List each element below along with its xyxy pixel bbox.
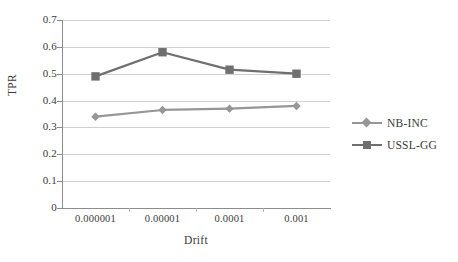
x-axis-tick-label: 0.0001 [214,213,244,225]
legend-label: USSL-GG [387,139,437,151]
x-axis-tick [129,208,130,212]
data-point-marker [225,104,233,112]
series-line [96,52,297,76]
y-axis-tick-labels: 00.10.20.30.40.50.60.7 [0,0,57,262]
data-point-marker [91,112,99,120]
x-axis-tick-label: 0.001 [284,213,309,225]
y-axis-title: TPR [6,74,18,96]
legend-label: NB-INC [387,117,428,129]
y-axis-tick-label: 0.7 [5,14,57,25]
y-axis-tick [57,208,62,209]
y-axis-tick-label: 0 [5,202,57,213]
legend-item-nb-inc[interactable]: NB-INC [352,112,452,134]
series-line [96,106,297,117]
data-point-marker [158,48,166,56]
series-nb-inc [91,102,300,121]
square-marker-icon [363,141,371,149]
y-axis-tick-label: 0.4 [5,95,57,106]
x-axis-tick-label: 0.000001 [75,213,116,225]
x-axis-tick [196,208,197,212]
legend-swatch [352,139,382,151]
data-point-marker [91,72,99,80]
legend-item-ussl-gg[interactable]: USSL-GG [352,134,452,156]
data-point-marker [158,106,166,114]
diamond-marker-icon [362,118,372,128]
x-axis-title: Drift [62,234,330,246]
series-ussl-gg [91,48,300,81]
y-axis-tick-label: 0.6 [5,41,57,52]
y-axis-tick-label: 0.3 [5,121,57,132]
data-point-marker [292,102,300,110]
x-axis-tick-label: 0.00001 [145,213,181,225]
data-series-layer [62,20,330,208]
x-axis-tick [263,208,264,212]
y-axis-tick-label: 0.1 [5,175,57,186]
y-axis-tick-label: 0.2 [5,148,57,159]
data-point-marker [225,65,233,73]
chart-figure: 00.10.20.30.40.50.60.7 0.0000010.000010.… [0,0,458,262]
legend: NB-INCUSSL-GG [352,112,452,156]
legend-swatch [352,117,382,129]
data-point-marker [292,70,300,78]
